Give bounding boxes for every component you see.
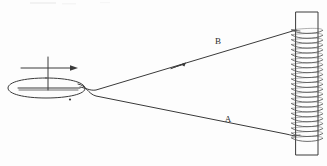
wire-lower-a xyxy=(78,84,296,136)
figure-canvas: B A xyxy=(0,0,327,166)
scan-smudge-group xyxy=(30,2,110,4)
pointer-arrowhead-icon xyxy=(70,65,78,71)
wire-group xyxy=(78,30,296,136)
wire-upper-b xyxy=(80,30,296,90)
wire-upper-b-arrow-icon xyxy=(170,63,186,70)
label-wire-b: B xyxy=(215,36,221,46)
right-device-group xyxy=(292,12,323,155)
pivot-dot xyxy=(69,98,71,100)
label-wire-a: A xyxy=(225,114,232,124)
diagram-svg: B A xyxy=(0,0,327,166)
left-device-group xyxy=(8,57,85,101)
